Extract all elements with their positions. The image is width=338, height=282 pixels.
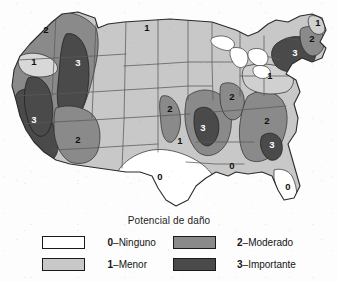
zone-label-mid-atlantic-1: 1 xyxy=(267,70,273,81)
zone-label-pacific-northwest-2: 2 xyxy=(43,24,48,35)
usa-damage-potential-map: 2133212103022301321 xyxy=(0,0,338,215)
zone-label-texas-0: 0 xyxy=(157,171,162,182)
legend-level-name-1: Menor xyxy=(119,259,147,270)
zone-label-florida-0: 0 xyxy=(285,181,290,192)
legend-swatch-cell-1 xyxy=(42,258,102,271)
legend-swatch-cell-2 xyxy=(173,236,231,249)
legend-label-level-1: 1–Menor xyxy=(108,259,168,270)
legend-entries: 0–Ninguno 2–Moderado 1–Menor 3–Important… xyxy=(42,232,297,274)
zone-label-coastal-maine-2: 2 xyxy=(309,33,314,44)
legend-swatch-level-1 xyxy=(42,258,85,271)
legend-level-name-3: Importante xyxy=(248,259,296,270)
zone-label-new-england-3: 3 xyxy=(292,47,297,58)
legend-label-level-3: 3–Importante xyxy=(237,259,297,270)
legend-title: Potencial de daño xyxy=(0,215,338,226)
legend-label-level-2: 2–Moderado xyxy=(237,237,297,248)
zone-label-central-plains-2: 2 xyxy=(167,103,172,114)
zone-label-great-lakes-2: 2 xyxy=(229,91,234,102)
zone-label-northern-plains-1: 1 xyxy=(144,22,150,33)
zone-label-northern-maine-1: 1 xyxy=(315,17,321,28)
seismic-hazard-map-figure: 2133212103022301321 Potencial de daño 0–… xyxy=(0,0,338,282)
legend-swatch-cell-3 xyxy=(173,258,231,271)
zone-label-new-madrid-3: 3 xyxy=(200,122,205,133)
zone-label-puget-lowland-1: 1 xyxy=(31,56,37,67)
legend-swatch-level-2 xyxy=(173,236,216,249)
zone-label-arizona-nevada-2: 2 xyxy=(75,134,80,145)
legend-level-name-2: Moderado xyxy=(248,237,293,248)
legend-swatch-cell-0 xyxy=(42,236,102,249)
legend-label-level-0: 0–Ninguno xyxy=(108,237,168,248)
zone-label-cascadia-3: 3 xyxy=(75,57,80,68)
map-legend: Potencial de daño 0–Ninguno 2–Moderado 1… xyxy=(0,215,338,274)
legend-swatch-level-0 xyxy=(42,236,85,249)
zone-label-southern-plains-1: 1 xyxy=(177,135,183,146)
zone-label-california-3: 3 xyxy=(31,114,36,125)
zone-label-gulf-coast-0: 0 xyxy=(229,160,234,171)
legend-swatch-level-3 xyxy=(173,258,216,271)
zone-label-appalachian-2: 2 xyxy=(264,115,269,126)
legend-level-name-0: Ninguno xyxy=(119,237,156,248)
zone-label-charleston-3: 3 xyxy=(269,139,274,150)
